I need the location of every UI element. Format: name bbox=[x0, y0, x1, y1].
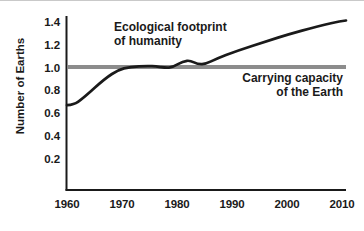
x-tick-label: 1960 bbox=[45, 198, 89, 210]
x-tick-label: 2010 bbox=[320, 198, 364, 210]
y-axis-title: Number of Earths bbox=[14, 33, 26, 139]
x-tick-label: 1990 bbox=[210, 198, 254, 210]
annotation-line-2: of humanity bbox=[114, 35, 227, 49]
y-tick-label: 1.0 bbox=[34, 62, 60, 74]
y-tick-label: 0.6 bbox=[34, 107, 60, 119]
annotation-ecological-footprint: Ecological footprint of humanity bbox=[114, 21, 227, 48]
chart-figure: Number of Earths 1.4 1.2 1.0 0.8 0.6 0.4… bbox=[0, 0, 364, 231]
y-tick-label: 0.8 bbox=[34, 84, 60, 96]
x-tick-label: 2000 bbox=[265, 198, 309, 210]
y-tick-label: 0.4 bbox=[34, 130, 60, 142]
x-tick-label: 1980 bbox=[155, 198, 199, 210]
annotation-line-1: Ecological footprint bbox=[114, 21, 227, 35]
x-tick-label: 1970 bbox=[100, 198, 144, 210]
y-tick-label: 1.2 bbox=[34, 39, 60, 51]
annotation-line-2: of the Earth bbox=[188, 86, 343, 100]
annotation-carrying-capacity: Carrying capacity of the Earth bbox=[188, 72, 343, 99]
y-tick-label: 1.4 bbox=[34, 16, 60, 28]
y-tick-label: 0.2 bbox=[34, 153, 60, 165]
annotation-line-1: Carrying capacity bbox=[188, 72, 343, 86]
